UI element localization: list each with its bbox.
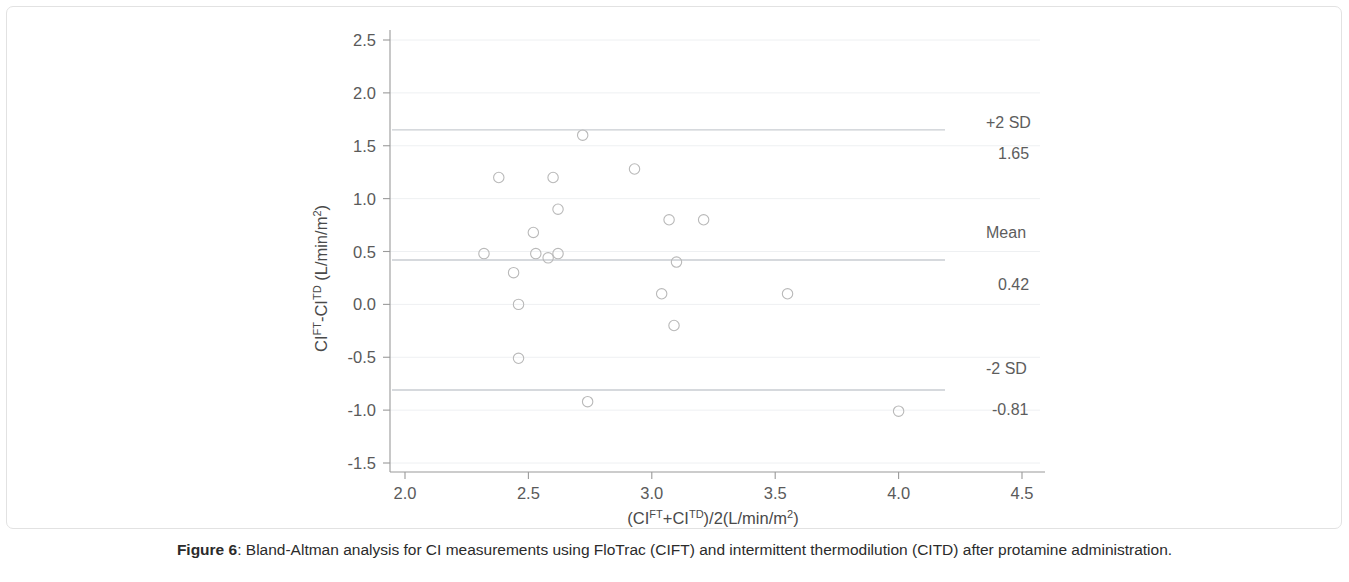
data-point xyxy=(577,130,587,140)
data-point xyxy=(582,396,592,406)
chart-svg: -1.5-1.0-0.50.00.51.01.52.02.5 2.02.53.0… xyxy=(0,0,1349,535)
figure-caption: Figure 6: Bland-Altman analysis for CI m… xyxy=(0,540,1349,560)
data-point xyxy=(629,164,639,174)
x-tick-label: 2.0 xyxy=(394,484,417,502)
data-point xyxy=(528,227,538,237)
data-points-group xyxy=(479,130,904,416)
y-tick-label: -0.5 xyxy=(348,348,376,366)
lower-sd-label: -2 SD xyxy=(986,360,1027,377)
upper-sd-value: 1.65 xyxy=(998,145,1029,162)
caption-separator: : xyxy=(237,541,246,558)
gridlines-group xyxy=(390,40,1040,463)
data-point xyxy=(553,248,563,258)
y-tick-label: 0.0 xyxy=(353,295,376,313)
data-point xyxy=(508,267,518,277)
mean-label: Mean xyxy=(986,224,1026,241)
data-point xyxy=(479,248,489,258)
data-point xyxy=(494,172,504,182)
data-point xyxy=(656,289,666,299)
bland-altman-plot: -1.5-1.0-0.50.00.51.01.52.02.5 2.02.53.0… xyxy=(0,0,1349,535)
x-tick-label: 3.5 xyxy=(764,484,787,502)
data-point xyxy=(513,353,523,363)
data-point xyxy=(698,215,708,225)
upper-sd-label: +2 SD xyxy=(986,114,1031,131)
reference-lines-group xyxy=(392,130,945,390)
x-tick-label: 4.0 xyxy=(887,484,910,502)
data-point xyxy=(664,215,674,225)
mean-value: 0.42 xyxy=(998,276,1029,293)
data-point xyxy=(671,257,681,267)
y-tick-label: 2.0 xyxy=(353,84,376,102)
y-tick-label: 2.5 xyxy=(353,31,376,49)
y-tick-group: -1.5-1.0-0.50.00.51.01.52.02.5 xyxy=(348,31,390,472)
data-point xyxy=(543,253,553,263)
data-point xyxy=(782,289,792,299)
y-tick-label: 1.0 xyxy=(353,190,376,208)
x-tick-label: 2.5 xyxy=(517,484,540,502)
figure-container: -1.5-1.0-0.50.00.51.01.52.02.5 2.02.53.0… xyxy=(0,0,1349,582)
data-point xyxy=(548,172,558,182)
y-tick-label: 1.5 xyxy=(353,137,376,155)
y-tick-label: -1.5 xyxy=(348,454,376,472)
y-tick-label: 0.5 xyxy=(353,243,376,261)
data-point xyxy=(553,204,563,214)
data-point xyxy=(893,406,903,416)
caption-figure-number: Figure 6 xyxy=(177,541,237,558)
lower-sd-value: -0.81 xyxy=(992,401,1029,418)
data-point xyxy=(669,320,679,330)
data-point xyxy=(531,248,541,258)
x-axis-title: (CIFT+CITD)/2(L/min/m2) xyxy=(627,508,798,527)
x-tick-group: 2.02.53.03.54.04.5 xyxy=(394,472,1034,502)
x-tick-label: 4.5 xyxy=(1011,484,1034,502)
y-axis-title: CIFT-CITD (L/min/m2) xyxy=(311,205,330,352)
y-tick-label: -1.0 xyxy=(348,401,376,419)
x-tick-label: 3.0 xyxy=(640,484,663,502)
caption-body: Bland-Altman analysis for CI measurement… xyxy=(246,541,1172,558)
